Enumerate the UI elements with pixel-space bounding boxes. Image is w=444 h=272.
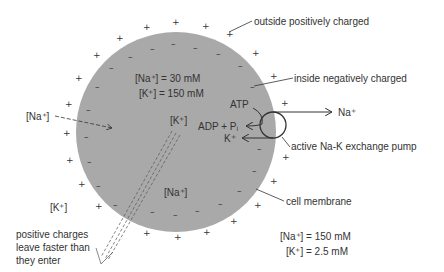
svg-text:–: – (238, 61, 243, 71)
svg-text:+: + (174, 232, 182, 242)
svg-text:–: – (193, 43, 198, 53)
svg-text:+: + (95, 201, 103, 211)
svg-text:–: – (150, 207, 155, 217)
label-adp: ADP + Pᵢ (198, 121, 238, 132)
svg-text:+: + (172, 17, 180, 27)
label-leak-1: positive charges (16, 229, 88, 240)
svg-text:+: + (116, 33, 124, 43)
svg-text:+: + (203, 227, 211, 237)
label-na-inside-conc: [Na⁺] = 30 mM (135, 73, 200, 84)
label-na-inside: [Na⁺] (164, 187, 188, 198)
svg-text:+: + (252, 48, 260, 58)
svg-text:–: – (86, 105, 91, 115)
label-k-inside: [K⁺] (170, 115, 187, 126)
svg-text:+: + (66, 155, 74, 165)
label-k-inside-conc: [K⁺] = 150 mM (139, 88, 204, 99)
label-atp: ATP (230, 99, 249, 110)
svg-text:+: + (202, 21, 210, 31)
svg-text:–: – (113, 200, 118, 210)
svg-text:–: – (216, 49, 221, 59)
svg-text:–: – (171, 39, 176, 49)
svg-text:–: – (252, 166, 257, 176)
svg-text:–: – (109, 63, 114, 73)
cell-diagram: + + + + + + + + + + + + + + + + + + + + … (0, 0, 444, 272)
label-k-ion: K⁺ (224, 133, 236, 144)
svg-text:–: – (95, 82, 100, 92)
svg-text:–: – (96, 181, 101, 191)
label-na-outside-conc: [Na⁺] = 150 mM (280, 231, 351, 242)
label-outside: outside positively charged (254, 16, 369, 27)
svg-text:+: + (75, 73, 83, 83)
label-pump: active Na-K exchange pump (291, 141, 417, 152)
svg-text:+: + (270, 71, 278, 81)
svg-text:–: – (257, 144, 262, 154)
svg-text:+: + (93, 50, 101, 60)
svg-text:–: – (84, 132, 89, 142)
label-leak-2: leave faster than (16, 242, 90, 253)
svg-text:–: – (195, 206, 200, 216)
cell-body (76, 32, 276, 232)
svg-text:–: – (173, 210, 178, 220)
svg-text:+: + (270, 176, 278, 186)
svg-text:+: + (65, 99, 73, 109)
svg-text:+: + (282, 152, 290, 162)
svg-text:–: – (218, 199, 223, 209)
svg-text:+: + (143, 228, 151, 238)
svg-text:–: – (250, 82, 255, 92)
label-membrane: cell membrane (286, 196, 352, 207)
svg-text:+: + (78, 179, 86, 189)
svg-text:+: + (230, 216, 238, 226)
svg-text:–: – (87, 157, 92, 167)
svg-text:+: + (143, 22, 151, 32)
label-k-outside-conc: [K⁺] = 2.5 mM (286, 246, 348, 257)
svg-text:–: – (237, 186, 242, 196)
svg-text:+: + (226, 29, 234, 39)
label-leak-3: they enter (16, 255, 61, 266)
svg-text:+: + (281, 98, 289, 108)
svg-text:+: + (63, 128, 71, 138)
label-na-ion: Na⁺ (338, 107, 356, 118)
label-k-outside: [K⁺] (50, 202, 67, 213)
svg-text:+: + (254, 200, 262, 210)
svg-text:–: – (150, 44, 155, 54)
svg-text:–: – (128, 52, 133, 62)
label-inside: inside negatively charged (294, 73, 407, 84)
label-na-outside: [Na⁺] (26, 111, 50, 122)
